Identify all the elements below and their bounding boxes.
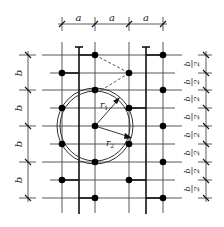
svg-text:b: b: [183, 61, 192, 66]
svg-text:b: b: [183, 79, 192, 84]
svg-text:2: 2: [192, 150, 201, 156]
dimension-label-half-b: b 2: [183, 167, 201, 175]
dimension-label-b: b: [13, 141, 24, 147]
svg-text:2: 2: [192, 114, 201, 120]
svg-text:b: b: [183, 114, 192, 119]
dimension-label-half-b: b 2: [183, 95, 201, 103]
svg-text:b: b: [183, 96, 192, 101]
dimension-label-half-b: b 2: [183, 113, 201, 121]
right-dimension: b 2 b 2 b 2 b 2 b 2 b 2 b: [183, 51, 212, 202]
grid-layout-diagram: a a a b b b b: [0, 0, 224, 227]
svg-text:2: 2: [192, 186, 201, 192]
svg-text:2: 2: [192, 61, 201, 67]
arrow-head-icon: [124, 133, 132, 139]
svg-text:b: b: [183, 168, 192, 173]
radius-label-r1: r1: [100, 100, 108, 111]
bold-support-lines: [62, 47, 163, 214]
dimension-label-half-b: b 2: [183, 60, 201, 68]
grid-points: [59, 52, 167, 202]
dimension-label-half-b: b 2: [183, 78, 201, 86]
svg-text:2: 2: [192, 96, 201, 102]
svg-text:2: 2: [192, 79, 201, 85]
radius-label-r2: r2: [106, 138, 114, 149]
svg-text:b: b: [183, 132, 192, 137]
dimension-label-half-b: b 2: [183, 185, 201, 193]
dimension-label-a: a: [143, 12, 149, 23]
svg-text:b: b: [183, 186, 192, 191]
dimension-label-a: a: [76, 12, 82, 23]
svg-text:2: 2: [192, 132, 201, 138]
dimension-label-half-b: b 2: [183, 131, 201, 139]
dimension-label-half-b: b 2: [183, 149, 201, 157]
left-dimension: b b b b: [13, 51, 36, 202]
dimension-label-b: b: [13, 105, 24, 111]
top-dimension: a a a: [58, 12, 167, 31]
grid-vertical-lines: [62, 42, 163, 213]
dimension-label-a: a: [109, 12, 115, 23]
svg-text:b: b: [183, 150, 192, 155]
dimension-label-b: b: [13, 177, 24, 183]
svg-text:2: 2: [192, 168, 201, 174]
dimension-label-b: b: [13, 70, 24, 76]
